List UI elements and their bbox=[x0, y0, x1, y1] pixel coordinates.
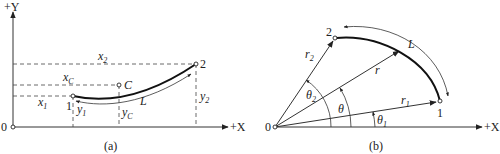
theta1-label: θ1 bbox=[377, 113, 387, 129]
origin-label-b: 0 bbox=[265, 120, 271, 134]
y1-label: y1 bbox=[76, 102, 86, 118]
y2-label: y2 bbox=[199, 89, 209, 105]
xc-label: xC bbox=[62, 70, 74, 86]
r1-label: r1 bbox=[401, 93, 410, 109]
origin-label: 0 bbox=[1, 120, 7, 134]
theta2-label: θ2 bbox=[306, 88, 316, 104]
point-1-label: 1 bbox=[66, 99, 72, 113]
x1-label: x1 bbox=[37, 95, 47, 111]
x-axis-label: +X bbox=[230, 120, 246, 134]
theta1-arc bbox=[373, 112, 375, 127]
curve-1-2 bbox=[73, 64, 196, 99]
yc-label: yC bbox=[121, 105, 133, 121]
arc-2-1 bbox=[336, 38, 440, 101]
point-1-label-b: 1 bbox=[437, 106, 443, 120]
point-c-label: C bbox=[124, 78, 133, 92]
y-axis-label: +Y bbox=[4, 0, 20, 14]
diagram-canvas: +Y +X 0 1 C 2 L x2 xC x1 y1 yC y2 (a) bbox=[0, 0, 500, 154]
r-label: r bbox=[375, 63, 380, 77]
r2-vector bbox=[275, 41, 333, 127]
point-2-b bbox=[333, 36, 337, 40]
point-2-label-b: 2 bbox=[326, 25, 332, 39]
point-2-label: 2 bbox=[200, 57, 206, 71]
panel-a: +Y +X 0 1 C 2 L x2 xC x1 y1 yC y2 (a) bbox=[1, 0, 246, 153]
x2-label: x2 bbox=[97, 49, 107, 65]
arc-length-arrow-b bbox=[344, 26, 448, 96]
point-1-b bbox=[438, 99, 442, 103]
point-c bbox=[117, 83, 121, 87]
point-2 bbox=[194, 62, 198, 66]
arc-length-label-b: L bbox=[407, 37, 415, 51]
arc-length-label: L bbox=[139, 94, 147, 108]
caption-a: (a) bbox=[104, 139, 117, 153]
origin-point bbox=[11, 125, 15, 129]
point-1 bbox=[71, 94, 75, 98]
x-axis-label-b: +X bbox=[484, 120, 500, 134]
r1-vector bbox=[275, 102, 436, 127]
r2-label: r2 bbox=[305, 47, 314, 63]
theta-label: θ bbox=[338, 102, 344, 116]
caption-b: (b) bbox=[369, 139, 383, 153]
panel-b: +X 0 2 1 L r2 r r1 θ2 θ θ1 (b) bbox=[265, 25, 500, 153]
origin-point-b bbox=[273, 125, 277, 129]
